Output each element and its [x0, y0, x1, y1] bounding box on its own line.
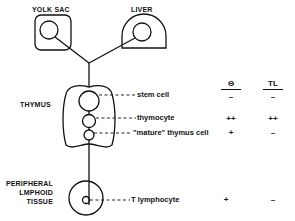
- liver-cell: [133, 23, 151, 41]
- liver-connector: [89, 38, 135, 63]
- peripheral-label-2: LMPHOID: [2, 189, 53, 196]
- t-lymphocyte-label: T lymphocyte: [131, 196, 179, 204]
- thymus-stem-cell: [79, 91, 99, 111]
- mature-thymus-cell-label: "mature" thymus cell: [133, 129, 208, 137]
- diagram-drawing: [0, 0, 295, 221]
- thymus-label: THYMUS: [20, 101, 51, 108]
- theta-stem-cell: –: [223, 93, 239, 101]
- tl-t-lymphocyte: –: [265, 196, 281, 204]
- liver-label: LIVER: [131, 6, 153, 13]
- peripheral-label-1: PERIPHERAL: [2, 180, 53, 187]
- tl-stem-cell: –: [265, 93, 281, 101]
- thymus-mature-cell: [84, 130, 94, 140]
- yolk-sac-label: YOLK SAC: [32, 6, 70, 13]
- theta-header: Θ: [221, 80, 241, 90]
- stem-cell-label: stem cell: [137, 91, 169, 99]
- thymocyte-label: thymocyte: [137, 114, 175, 122]
- theta-t-lymphocyte: +: [218, 196, 234, 204]
- liver-shape: [122, 14, 166, 48]
- theta-mature-cell: +: [223, 129, 239, 137]
- peripheral-tissue-shape: [69, 181, 103, 215]
- theta-thymocyte: ++: [223, 115, 239, 123]
- t-cell-differentiation-diagram: YOLK SAC LIVER THYMUS PERIPHERAL LMPHOID…: [0, 0, 295, 221]
- tl-mature-cell: –: [265, 129, 281, 137]
- yolk-sac-cell: [40, 21, 58, 39]
- peripheral-label-3: TISSUE: [2, 198, 53, 205]
- tl-header: TL: [263, 80, 283, 90]
- tl-thymocyte: ++: [265, 115, 281, 123]
- thymus-thymocyte: [83, 115, 96, 128]
